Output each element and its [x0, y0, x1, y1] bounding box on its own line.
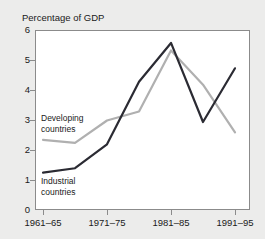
series-label-developing-line1: Developing: [41, 113, 84, 123]
series-label-industrial-line2: countries: [41, 187, 76, 197]
series-label-developing-line2: countries: [41, 124, 76, 134]
line-industrial-countries: [43, 43, 235, 173]
series-lines: [0, 0, 265, 239]
chart-figure: Percentage of GDP 6 5 4 3 2 1 0 1961–65 …: [0, 0, 265, 239]
series-label-industrial-countries: Industrial countries: [41, 176, 76, 198]
series-label-developing-countries: Developing countries: [41, 113, 84, 135]
series-label-industrial-line1: Industrial: [41, 176, 76, 186]
